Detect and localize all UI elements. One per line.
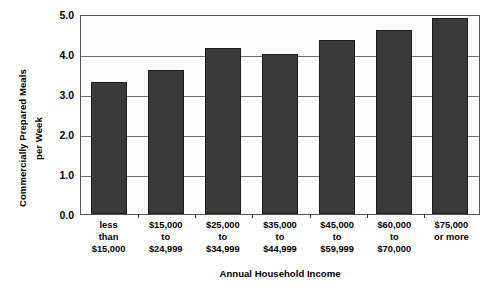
y-axis-tick-label: 2.0 [40, 130, 74, 140]
x-axis-category-label-line: $15,000 [82, 243, 136, 255]
x-axis-category-label-line: $75,000 [424, 219, 478, 231]
x-axis-category-label-line: $70,000 [367, 243, 421, 255]
x-axis-category-label-line: to [310, 231, 364, 243]
x-axis-category-label: lessthan$15,000 [82, 219, 136, 265]
x-axis-category-label-line: to [253, 231, 307, 243]
x-axis-category-label-line: $25,000 [196, 219, 250, 231]
y-axis-tick-labels: 0.01.02.03.04.05.0 [38, 0, 74, 230]
x-axis-tick-mark [138, 214, 139, 218]
bar [262, 54, 298, 214]
x-axis-title: Annual Household Income [80, 268, 480, 279]
x-axis-tick-mark [367, 214, 368, 218]
y-axis-tick-label: 4.0 [40, 50, 74, 60]
bar [319, 40, 355, 214]
y-axis-tick-label: 1.0 [40, 170, 74, 180]
x-axis-category-label: $15,000to$24,999 [139, 219, 193, 265]
x-axis-category-label-line: to [139, 231, 193, 243]
x-axis-category-label-line: than [82, 231, 136, 243]
bar-chart: Commercially Prepared Meals per Week 0.0… [0, 0, 499, 291]
x-axis-category-label-line: to [367, 231, 421, 243]
x-axis-tick-mark [310, 214, 311, 218]
x-axis-category-label-line: $45,000 [310, 219, 364, 231]
x-axis-category-label-line: $15,000 [139, 219, 193, 231]
x-axis-tick-mark [424, 214, 425, 218]
x-axis-category-label-line: $24,999 [139, 243, 193, 255]
bar [432, 18, 468, 214]
x-axis-category-label: $60,000to$70,000 [367, 219, 421, 265]
x-axis-category-label-line: $59,999 [310, 243, 364, 255]
y-axis-tick-label: 3.0 [40, 90, 74, 100]
y-axis-tick-label: 0.0 [40, 210, 74, 220]
x-axis-category-label-line: or more [424, 231, 478, 243]
bar-series [81, 16, 479, 214]
y-axis-tick-label: 5.0 [40, 10, 74, 20]
x-axis-category-label: $35,000to$44,999 [253, 219, 307, 265]
x-axis-category-label-line: less [82, 219, 136, 231]
x-axis-category-label-line: $44,999 [253, 243, 307, 255]
x-axis-tick-mark [195, 214, 196, 218]
plot-area [80, 15, 480, 215]
bar [148, 70, 184, 214]
bar [205, 48, 241, 214]
x-axis-category-label-line: $60,000 [367, 219, 421, 231]
x-axis-category-label: $45,000to$59,999 [310, 219, 364, 265]
x-axis-category-label-line: to [196, 231, 250, 243]
y-axis-title-line-1: Commercially Prepared Meals [17, 69, 28, 207]
x-axis-category-label-line: $35,000 [253, 219, 307, 231]
x-axis-tick-labels: lessthan$15,000$15,000to$24,999$25,000to… [80, 219, 480, 265]
bar [376, 30, 412, 214]
x-axis-tick-mark [252, 214, 253, 218]
x-axis-category-label: $75,000or more [424, 219, 478, 265]
bar [91, 82, 127, 214]
x-axis-category-label: $25,000to$34,999 [196, 219, 250, 265]
x-axis-category-label-line: $34,999 [196, 243, 250, 255]
